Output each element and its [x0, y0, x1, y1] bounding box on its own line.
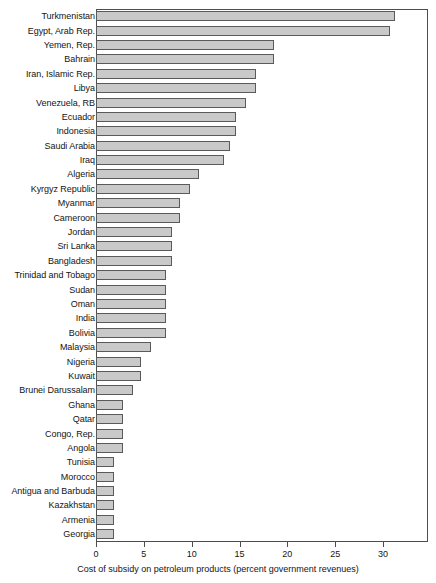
bar-row: Indonesia [0, 124, 436, 138]
category-label: Iran, Islamic Rep. [26, 69, 95, 79]
category-label: Yemen, Rep. [44, 40, 95, 50]
category-label: Kazakhstan [48, 500, 95, 510]
bar-row: Kyrgyz Republic [0, 182, 436, 196]
category-label: Brunei Darussalam [19, 385, 95, 395]
x-axis-title: Cost of subsidy on petroleum products (p… [0, 563, 436, 575]
x-axis-tick-label: 0 [93, 549, 98, 560]
x-axis-tick [287, 542, 288, 547]
x-axis-tick [383, 542, 384, 547]
bar-row: Armenia [0, 513, 436, 527]
bar-row: Qatar [0, 412, 436, 426]
bar [96, 270, 166, 280]
category-label: Oman [71, 299, 95, 309]
bar [96, 342, 151, 352]
bar-row: Sri Lanka [0, 239, 436, 253]
bar [96, 328, 166, 338]
bar [96, 241, 172, 251]
category-label: Morocco [61, 472, 95, 482]
bar-chart-figure: TurkmenistanEgypt, Arab Rep.Yemen, Rep.B… [0, 0, 436, 583]
x-axis-tick [335, 542, 336, 547]
category-label: Angola [67, 443, 95, 453]
bar-row: Tunisia [0, 455, 436, 469]
category-label: Armenia [62, 515, 95, 525]
bar [96, 414, 123, 424]
bar-row: Bangladesh [0, 254, 436, 268]
category-label: Jordan [68, 227, 95, 237]
bar-row: Ecuador [0, 110, 436, 124]
bar [96, 486, 114, 496]
bar-row: Libya [0, 81, 436, 95]
x-axis-tick [240, 542, 241, 547]
bar [96, 285, 166, 295]
bar-row: India [0, 311, 436, 325]
bar [96, 472, 114, 482]
bar-row: Egypt, Arab Rep. [0, 23, 436, 37]
bar [96, 26, 390, 36]
bar [96, 184, 190, 194]
bar [96, 313, 166, 323]
category-label: Kuwait [68, 371, 95, 381]
x-axis-tick [192, 542, 193, 547]
category-label: Nigeria [67, 357, 95, 367]
bar-row: Jordan [0, 225, 436, 239]
bar [96, 515, 114, 525]
bar-row: Georgia [0, 527, 436, 541]
x-axis-tick-labels: 051015202530 [0, 549, 436, 562]
category-label: Bolivia [69, 328, 95, 338]
bar-row: Bolivia [0, 326, 436, 340]
bar [96, 457, 114, 467]
bar-row: Oman [0, 297, 436, 311]
x-axis-tick [144, 542, 145, 547]
bar-row: Venezuela, RB [0, 95, 436, 109]
bar-row: Yemen, Rep. [0, 38, 436, 52]
bar-row: Angola [0, 441, 436, 455]
bar-row: Morocco [0, 470, 436, 484]
bar [96, 256, 172, 266]
category-label: Kyrgyz Republic [31, 184, 95, 194]
bar [96, 400, 123, 410]
category-label: Ecuador [62, 112, 95, 122]
category-label: Bangladesh [48, 256, 95, 266]
bar [96, 126, 236, 136]
bar [96, 69, 256, 79]
bar [96, 299, 166, 309]
x-axis-tick-label: 5 [141, 549, 146, 560]
x-axis-tick [96, 542, 97, 547]
bar [96, 155, 224, 165]
bar [96, 500, 114, 510]
category-label: Libya [74, 83, 95, 93]
bar [96, 169, 199, 179]
x-axis-tick-label: 20 [282, 549, 292, 560]
category-label: Malaysia [60, 342, 95, 352]
bar-row: Kazakhstan [0, 498, 436, 512]
x-axis-tick-label: 15 [235, 549, 245, 560]
bar [96, 54, 274, 64]
category-label: Antigua and Barbuda [11, 486, 95, 496]
bar [96, 213, 180, 223]
bar [96, 11, 395, 21]
bar-row: Cameroon [0, 210, 436, 224]
category-label: Cameroon [53, 213, 95, 223]
x-axis-tick-label: 30 [378, 549, 388, 560]
bar [96, 198, 180, 208]
category-label: Indonesia [56, 126, 95, 136]
bar-row: Bahrain [0, 52, 436, 66]
category-label: Iraq [80, 155, 95, 165]
x-axis-tick-label: 10 [187, 549, 197, 560]
category-label: Tunisia [67, 457, 95, 467]
bar-row: Myanmar [0, 196, 436, 210]
category-label: Sudan [69, 285, 95, 295]
bar [96, 98, 246, 108]
bar-row: Iraq [0, 153, 436, 167]
category-label: Congo, Rep. [45, 429, 95, 439]
bar [96, 443, 123, 453]
bar-row: Ghana [0, 398, 436, 412]
bar [96, 227, 172, 237]
category-label: Saudi Arabia [45, 141, 95, 151]
bar-row: Congo, Rep. [0, 426, 436, 440]
bar [96, 83, 256, 93]
x-axis-ticks [0, 542, 436, 548]
bar-row: Sudan [0, 282, 436, 296]
bar [96, 40, 274, 50]
bar [96, 529, 114, 539]
